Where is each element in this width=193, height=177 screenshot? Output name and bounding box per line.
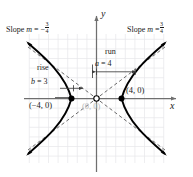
rise-value-text: = 3 (37, 77, 48, 86)
rise-value-label: b = 3 (31, 78, 48, 86)
vertex-left-label: (−4, 0) (29, 101, 52, 110)
slope-left-prefix: Slope (6, 25, 24, 34)
run-label: run (105, 48, 116, 56)
run-value-text: = 4 (101, 59, 112, 68)
slope-label-left: Slope m = −34 (6, 21, 49, 34)
x-axis-label: x (170, 101, 174, 111)
slope-right-denominator: 4 (160, 28, 164, 34)
rise-label: rise (37, 64, 49, 72)
origin-label: (0, 0) (82, 102, 100, 111)
run-value-label: a = 4 (95, 60, 112, 68)
rise-measure-arrow (60, 85, 83, 91)
slope-right-prefix: Slope (127, 25, 145, 34)
vertex-left-point (69, 96, 75, 102)
rise-value-var: b (31, 77, 35, 86)
slope-left-fraction: 34 (45, 21, 49, 34)
vertex-right-point (119, 96, 125, 102)
slope-right-fraction: 34 (160, 21, 164, 34)
slope-left-numerator: 3 (45, 21, 49, 28)
vertex-right-label: (4, 0) (126, 86, 144, 95)
slope-right-var: m (147, 25, 153, 34)
y-axis-label: y (101, 9, 105, 19)
slope-left-var: m (26, 25, 32, 34)
slope-right-numerator: 3 (160, 21, 164, 28)
slope-left-denominator: 4 (45, 28, 49, 34)
slope-left-eq: = − (34, 25, 45, 34)
run-value-var: a (95, 59, 99, 68)
slope-label-right: Slope m =34 (127, 21, 164, 34)
hyperbola-figure: y x Slope m = −34 Slope m =34 run a = 4 … (0, 0, 193, 177)
